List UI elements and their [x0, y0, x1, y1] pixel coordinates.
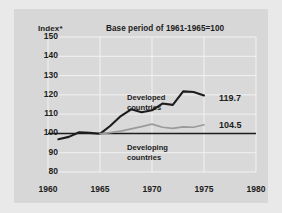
x-tick: 1975 [187, 178, 221, 190]
y-tick: 100 [32, 127, 58, 138]
y-tick: 120 [32, 89, 58, 100]
chart-figure: Index* Base period of 1961-1965=100 8090… [0, 0, 282, 213]
x-tick: 1965 [83, 178, 117, 190]
x-tick-label: 1970 [143, 184, 162, 194]
y-tick-label: 110 [44, 108, 58, 118]
y-tick-label: 80 [49, 166, 58, 176]
y-tick-label: 130 [44, 70, 58, 80]
annot-developing-line1: Developing [127, 143, 168, 153]
x-tick-label: 1965 [91, 184, 110, 194]
x-tick-label: 1960 [39, 184, 58, 194]
y-tick-label: 140 [44, 50, 58, 60]
y-tick-label: 90 [49, 147, 58, 157]
series-annotation-developing: Developing countries [127, 143, 168, 162]
y-tick-label: 120 [44, 89, 58, 99]
annot-developing-line2: countries [127, 153, 168, 163]
annot-developed-line1: Developed [127, 93, 165, 103]
x-tick: 1970 [135, 178, 169, 190]
chart-panel: Index* Base period of 1961-1965=100 8090… [14, 9, 268, 203]
y-tick: 150 [32, 31, 58, 42]
x-tick-label: 1980 [247, 184, 266, 194]
y-tick: 130 [32, 70, 58, 81]
y-tick-label: 150 [44, 31, 58, 41]
y-tick-label: 100 [44, 127, 58, 137]
y-tick: 90 [32, 147, 58, 158]
x-tick: 1980 [239, 178, 273, 190]
y-tick: 110 [32, 108, 58, 119]
value-label-developing: 104.5 [219, 120, 242, 130]
series-annotation-developed: Developed countries [127, 93, 165, 112]
value-label-developed: 119.7 [219, 93, 241, 103]
y-tick: 80 [32, 166, 58, 177]
x-tick-label: 1975 [195, 184, 214, 194]
y-tick: 140 [32, 50, 58, 61]
x-tick: 1960 [31, 178, 65, 190]
annot-developed-line2: countries [127, 103, 165, 113]
